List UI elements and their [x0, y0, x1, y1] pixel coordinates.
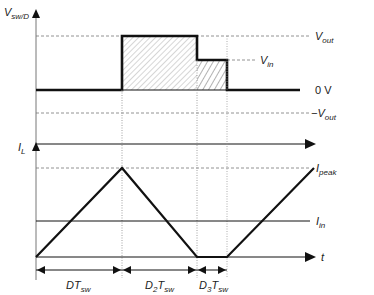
label-vout: Vout: [315, 30, 334, 45]
arrow-left-icon: [198, 266, 206, 274]
y-axis-label-vswd: Vsw/D: [4, 6, 29, 21]
arrow-right-icon: [218, 266, 226, 274]
label-zero-volt: 0 V: [315, 84, 332, 96]
boost-converter-dcm-waveform-diagram: Vsw/D Vout Vin 0 V −Vout IL: [0, 0, 374, 295]
y-axis-label-il: IL: [18, 141, 26, 156]
label-vin: Vin: [260, 54, 274, 69]
label-t: t: [321, 251, 325, 263]
label-d3t-sw: D3Tsw: [199, 279, 229, 294]
label-iin: Iin: [316, 215, 326, 230]
t-axis-arrow-icon: [305, 252, 316, 262]
arrow-right-icon: [188, 266, 196, 274]
arrow-right-icon: [113, 266, 121, 274]
hatched-region-vout: [122, 36, 197, 90]
label-ipeak: Ipeak: [316, 162, 337, 177]
top-time-axis-arrow-icon: [305, 139, 316, 149]
label-neg-vout: −Vout: [311, 107, 337, 122]
y-axis-arrow-icon: [32, 9, 40, 18]
hatched-region-vin: [197, 60, 227, 90]
arrow-left-icon: [37, 266, 45, 274]
label-d2t-sw: D2Tsw: [145, 279, 175, 294]
il-waveform: [36, 168, 314, 257]
interval-dimensions: DTsw D2Tsw D3Tsw: [36, 266, 229, 294]
label-dt-sw: DTsw: [66, 279, 92, 294]
arrow-left-icon: [123, 266, 131, 274]
il-axis-arrow-icon: [32, 142, 40, 151]
bottom-plot-current: IL Ipeak Iin t: [18, 141, 337, 263]
